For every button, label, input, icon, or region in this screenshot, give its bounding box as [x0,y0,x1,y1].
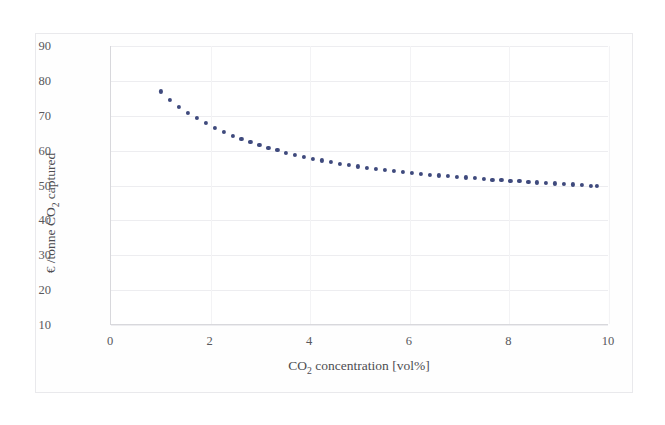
gridline-y-40 [111,220,608,221]
figure-canvas: € /tonne CO2 captured CO2 concentration … [0,0,665,425]
data-point [455,175,459,179]
gridline-x-4 [310,46,311,324]
data-point [284,151,288,155]
y-tick-label-20: 20 [21,284,51,297]
gridline-y-80 [111,81,608,82]
data-point [463,175,467,179]
plot-area [110,46,608,325]
gridline-y-60 [111,151,608,152]
x-tick-label-0: 0 [95,335,125,348]
data-point [275,148,279,152]
y-tick-label-60: 60 [21,145,51,158]
data-point [517,179,521,183]
data-point [221,130,225,134]
data-point [374,167,378,171]
x-axis-label: CO2 concentration [vol%] [110,358,608,376]
gridline-x-8 [509,46,510,324]
data-point [204,121,208,125]
data-point [490,177,494,181]
data-point [383,168,387,172]
data-point [544,181,548,185]
data-point [320,158,324,162]
y-axis-label-subscript: 2 [50,202,61,207]
x-tick-label-4: 4 [294,335,324,348]
data-point [293,153,297,157]
data-point [594,184,598,188]
y-tick-label-30: 30 [21,249,51,262]
gridline-y-30 [111,255,608,256]
x-axis-label-post: concentration [vol%] [312,358,430,373]
x-tick-label-10: 10 [593,335,623,348]
data-point [230,134,234,138]
data-point [481,177,485,181]
x-tick-label-2: 2 [195,335,225,348]
y-tick-label-10: 10 [21,319,51,332]
data-point [329,160,333,164]
data-point [347,163,351,167]
data-point [526,180,530,184]
data-point [472,176,476,180]
data-point [535,180,539,184]
y-tick-label-70: 70 [21,110,51,123]
gridline-y-20 [111,290,608,291]
data-point [338,161,342,165]
data-point [428,173,432,177]
data-point [159,89,163,93]
gridline-y-70 [111,116,608,117]
y-axis-label-post: captured [43,152,58,202]
gridline-y-50 [111,186,608,187]
data-point [186,111,190,115]
data-point [248,140,252,144]
data-point [365,166,369,170]
x-tick-label-6: 6 [394,335,424,348]
data-point [302,155,306,159]
x-axis-label-pre: CO [288,358,307,373]
data-point [356,164,360,168]
y-tick-label-90: 90 [21,40,51,53]
data-point [212,126,216,130]
y-tick-label-80: 80 [21,75,51,88]
data-point [392,169,396,173]
data-point [257,143,261,147]
gridline-x-6 [410,46,411,324]
gridline-x-10 [609,46,610,324]
gridline-x-2 [211,46,212,324]
data-point [499,178,503,182]
data-point [239,137,243,141]
data-point [168,98,172,102]
plot-region [110,46,608,325]
data-point [401,170,405,174]
data-point [410,171,414,175]
data-point [266,146,270,150]
data-point [177,105,181,109]
y-tick-label-40: 40 [21,214,51,227]
data-point [589,183,593,187]
data-point [311,157,315,161]
y-tick-label-50: 50 [21,180,51,193]
data-point [419,172,423,176]
data-point [508,179,512,183]
data-point [195,116,199,120]
gridline-y-90 [111,46,608,47]
x-tick-label-8: 8 [493,335,523,348]
data-point [446,174,450,178]
gridline-y-10 [111,325,608,326]
data-point [437,173,441,177]
